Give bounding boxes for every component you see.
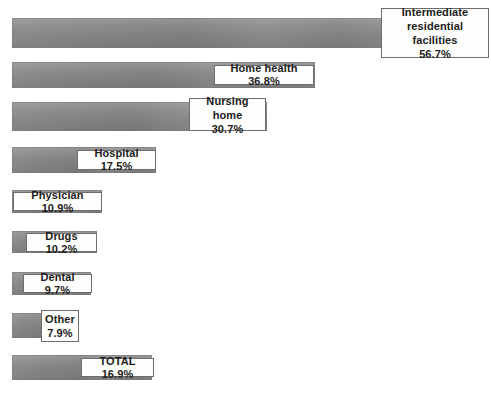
bar-row: Nursing home 30.7% <box>0 102 491 131</box>
bar-label-drugs: Drugs 10.2% <box>26 233 97 252</box>
bar-intermediate-residential-facilities <box>12 18 385 48</box>
bar-row: Intermediate residential facilities 56.7… <box>0 18 491 48</box>
bar-row: Other 7.9% <box>0 313 491 338</box>
bar-row: Dental 9.7% <box>0 272 491 295</box>
bar-label-total: TOTAL 16.9% <box>81 358 154 377</box>
bar-label-nursing-home: Nursing home 30.7% <box>189 98 266 131</box>
bar-row: Physician 10.9% <box>0 190 491 213</box>
bar-label-home-health: Home health 36.8% <box>214 65 314 85</box>
bar-label-hospital: Hospital 17.5% <box>77 150 156 170</box>
bar-label-intermediate-residential-facilities: Intermediate residential facilities 56.7… <box>381 8 489 58</box>
horizontal-bar-chart: Intermediate residential facilities 56.7… <box>0 0 491 393</box>
bar-label-physician: Physician 10.9% <box>13 192 102 211</box>
bar-row: Hospital 17.5% <box>0 147 491 173</box>
bar-label-other: Other 7.9% <box>41 310 79 342</box>
bar-label-dental: Dental 9.7% <box>23 274 92 293</box>
bar-row: TOTAL 16.9% <box>0 355 491 380</box>
bar-row: Home health 36.8% <box>0 62 491 88</box>
bar-row: Drugs 10.2% <box>0 231 491 253</box>
